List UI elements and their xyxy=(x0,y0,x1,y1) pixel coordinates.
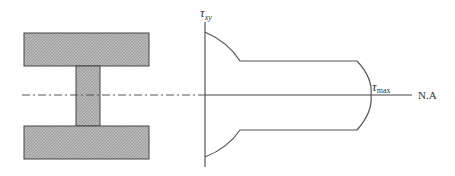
bottom-flange xyxy=(24,126,149,159)
web xyxy=(76,66,100,126)
neutral-axis-label: N.A xyxy=(418,89,437,101)
shear-stress-diagram: τxy τmax N.A xyxy=(0,0,455,176)
tau-max-label: τmax xyxy=(372,79,390,95)
i-beam-cross-section xyxy=(24,33,149,159)
tau-xy-label: τxy xyxy=(200,5,212,22)
top-flange xyxy=(24,33,149,66)
